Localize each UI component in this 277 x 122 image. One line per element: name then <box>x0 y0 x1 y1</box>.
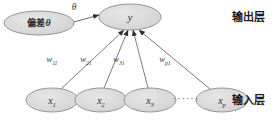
edge-line-wp1 <box>139 30 210 89</box>
node-input-x1[interactable]: x1 <box>26 88 78 112</box>
edge-label-theta: θ <box>72 2 77 12</box>
label-input-layer: 输入层 <box>232 93 265 107</box>
edge-line-bias <box>74 15 99 22</box>
edge-input-4-to-output: wp1 <box>139 30 210 89</box>
edge-group-inputs-to-output: w11w21w31wp1 <box>46 30 210 89</box>
node-output-y[interactable]: y <box>99 4 161 30</box>
node-bias[interactable]: 偏差θ <box>4 11 74 35</box>
edge-label-w31: w31 <box>113 54 125 66</box>
edge-label-w11: w11 <box>46 54 57 66</box>
node-bias-label: 偏差θ <box>27 17 51 28</box>
node-input-x3[interactable]: x3 <box>124 88 176 112</box>
neural-network-diagram: θ w11w21w31wp1 偏差θ y x1x2x3xp ······ 输出层… <box>0 0 277 122</box>
label-output-layer: 输出层 <box>232 10 265 24</box>
edge-bias-to-output: θ <box>72 2 99 22</box>
edge-line-w31 <box>133 30 148 88</box>
input-ellipsis: ······ <box>173 93 199 104</box>
node-input-x2[interactable]: x2 <box>75 88 127 112</box>
edge-input-3-to-output: w31 <box>113 30 148 88</box>
diagram-canvas: θ w11w21w31wp1 偏差θ y x1x2x3xp ······ 输出层… <box>0 0 277 122</box>
edge-label-w21: w21 <box>80 54 92 66</box>
edge-label-wp1: wp1 <box>159 54 171 66</box>
node-output-label: y <box>127 12 133 23</box>
node-group-inputs: x1x2x3xp <box>26 88 248 112</box>
